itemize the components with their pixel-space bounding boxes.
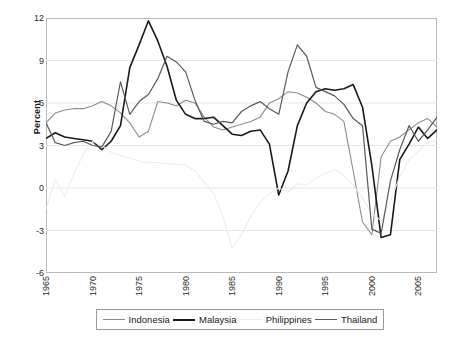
legend-swatch-philippines-icon [240,319,262,320]
legend-item-thailand[interactable]: Thailand [315,314,377,325]
legend-label: Thailand [341,314,377,325]
x-axis-tick-label: 1965 [41,276,51,296]
legend-item-philippines[interactable]: Philippines [240,314,312,325]
legend-item-malaysia[interactable]: Malaysia [173,314,237,325]
x-axis-tick-label: 1970 [88,276,98,296]
x-axis-tick-label: 1990 [274,276,284,296]
legend-label: Malaysia [199,314,237,325]
x-axis-tick-label: 1995 [320,276,330,296]
chart-legend: IndonesiaMalaysiaPhilippinesThailand [96,309,384,330]
legend-label: Indonesia [129,314,170,325]
x-axis-tick-label: 2005 [413,276,423,296]
x-axis-tick-label: 2000 [367,276,377,296]
x-axis-tick-labels: 196519701975198019851990199520002005 [0,0,452,337]
x-axis-tick-label: 1985 [227,276,237,296]
legend-swatch-indonesia-icon [103,319,125,320]
legend-label: Philippines [266,314,312,325]
legend-swatch-malaysia-icon [173,319,195,321]
legend-item-indonesia[interactable]: Indonesia [103,314,170,325]
legend-swatch-thailand-icon [315,319,337,320]
x-axis-tick-label: 1980 [181,276,191,296]
economic-growth-line-chart: Percent 129630-3-6 196519701975198019851… [0,0,452,337]
x-axis-tick-label: 1975 [134,276,144,296]
